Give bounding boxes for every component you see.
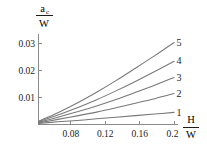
curve-label-2: 2 (177, 88, 182, 99)
chart-svg: 0.03 0.02 0.01 0.08 0.12 0.16 0.2 1 2 3 … (0, 0, 207, 152)
y-tick-label-3: 0.03 (18, 39, 35, 49)
x-tick-label-1: 0.08 (63, 129, 80, 139)
curve-label-1: 1 (177, 107, 182, 118)
x-axis-label-numerator: H (187, 114, 195, 125)
x-tick-label-3: 0.16 (131, 129, 148, 139)
data-curve-5 (39, 42, 175, 121)
x-tick-label-2: 0.12 (97, 129, 114, 139)
y-axis-label-numerator: a (40, 3, 45, 14)
y-tick-label-1: 0.01 (18, 93, 35, 103)
data-curve-1 (39, 112, 175, 123)
y-axis-label-denominator: W (39, 18, 49, 29)
curve-label-3: 3 (177, 72, 182, 83)
x-tick-label-4: 0.2 (167, 129, 179, 139)
y-axis-label: a c W (36, 3, 53, 29)
y-axis-label-numerator-subscript: c (46, 8, 49, 16)
curve-label-5: 5 (177, 37, 182, 48)
curve-label-4: 4 (177, 55, 182, 66)
chart-figure: 0.03 0.02 0.01 0.08 0.12 0.16 0.2 1 2 3 … (0, 0, 207, 152)
y-tick-label-2: 0.02 (18, 66, 35, 76)
x-axis-label: H W (183, 114, 199, 140)
x-axis-label-denominator: W (186, 129, 196, 140)
data-curve-3 (39, 77, 175, 122)
